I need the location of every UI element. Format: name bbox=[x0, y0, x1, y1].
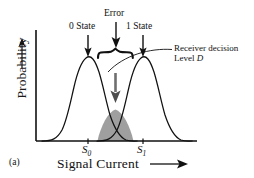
arrow-to-0-state-peak bbox=[84, 35, 91, 57]
arrow-to-error-region bbox=[110, 73, 120, 103]
x-tick-label-s1-sub: 1 bbox=[143, 149, 147, 158]
panel-label: (a) bbox=[9, 157, 20, 168]
probability-distribution-figure: Probability 0 State Error 1 State Receiv… bbox=[0, 0, 254, 178]
x-axis-label: Signal Current bbox=[57, 156, 139, 171]
receiver-decision-line1: Receiver decision bbox=[174, 43, 238, 53]
label-0-state: 0 State bbox=[69, 21, 95, 32]
decision-level-brace bbox=[98, 49, 133, 58]
receiver-decision-level-text: Level bbox=[174, 53, 197, 63]
x-axis-direction-arrow bbox=[150, 160, 188, 169]
receiver-decision-level-symbol: D bbox=[197, 53, 204, 63]
callout-leader-line bbox=[108, 49, 172, 72]
arrow-to-error-brace bbox=[112, 22, 121, 48]
error-region-shading bbox=[98, 110, 134, 141]
receiver-decision-line2: Level D bbox=[174, 53, 238, 63]
label-1-state: 1 State bbox=[126, 21, 152, 32]
arrow-to-1-state-peak bbox=[139, 35, 146, 57]
label-error: Error bbox=[104, 8, 124, 19]
y-axis-label: Probability bbox=[14, 28, 30, 108]
label-receiver-decision: Receiver decision Level D bbox=[174, 43, 238, 63]
